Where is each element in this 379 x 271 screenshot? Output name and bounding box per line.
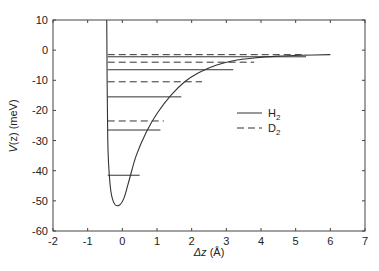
y-tick-label: -60 (32, 225, 48, 237)
x-tick-label: -2 (48, 235, 58, 247)
potential-energy-chart: -2-101234567 100-10-20-30-40-50-60 H2D2 … (0, 0, 379, 271)
y-axis-title: V(z) (meV) (7, 99, 19, 152)
y-axis: 100-10-20-30-40-50-60 (32, 14, 365, 237)
x-tick-label: 6 (327, 235, 333, 247)
x-axis: -2-101234567 (48, 20, 368, 247)
x-axis-title-var: Δz (193, 246, 207, 258)
legend-label-h2: H2 (268, 107, 281, 122)
y-tick-label: 10 (36, 14, 48, 26)
y-tick-label: 0 (42, 44, 48, 56)
y-axis-title-unit: (z) (meV) (7, 99, 19, 145)
y-tick-label: -20 (32, 104, 48, 116)
legend-label-d2: D2 (268, 122, 281, 137)
y-tick-label: -30 (32, 135, 48, 147)
plot-frame (53, 20, 365, 231)
x-tick-label: 7 (362, 235, 368, 247)
x-tick-label: 5 (293, 235, 299, 247)
x-axis-title: Δz (Å) (193, 246, 225, 258)
y-tick-label: -50 (32, 195, 48, 207)
y-tick-label: -10 (32, 74, 48, 86)
plot-area (53, 20, 365, 231)
x-tick-label: -1 (83, 235, 93, 247)
y-tick-label: -40 (32, 165, 48, 177)
x-tick-label: 0 (119, 235, 125, 247)
legend: H2D2 (237, 107, 281, 137)
x-tick-label: 4 (258, 235, 264, 247)
potential-curve (107, 20, 331, 206)
x-axis-title-unit: (Å) (207, 246, 225, 258)
potential-curve-line (107, 20, 331, 206)
x-tick-label: 1 (154, 235, 160, 247)
